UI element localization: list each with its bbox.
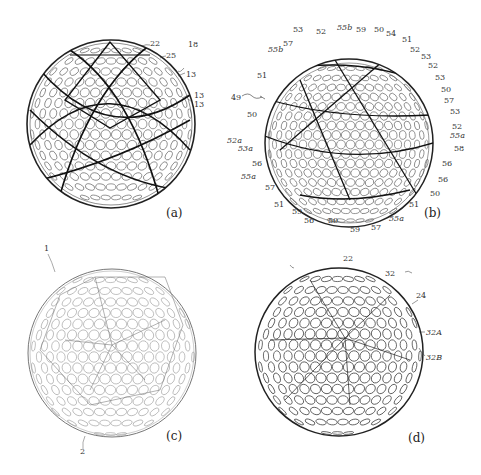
ref-57-r: 57 xyxy=(444,97,454,105)
ref-1: 1 xyxy=(44,245,49,253)
ref-51-bl: 51 xyxy=(274,201,284,209)
ref-51: 51 xyxy=(402,36,412,44)
panel-a: 22 25 18 13 13 13 (a) xyxy=(0,0,240,240)
panel-b: 53 52 55b 59 50 54 51 57 55b 52 53 52 53… xyxy=(240,0,481,240)
ref-53-r3: 53 xyxy=(450,108,460,116)
ref-56-r2: 56 xyxy=(438,176,448,184)
ref-52-r1: 52 xyxy=(410,46,420,54)
panel-d: 22 32 24 32A 32B (d) xyxy=(240,240,481,475)
ref-22: 22 xyxy=(343,255,353,263)
ref-55a-l: 55a xyxy=(241,173,256,181)
golf-ball-diagram-c xyxy=(0,240,240,475)
ref-59-b1: 59 xyxy=(292,208,302,216)
ref-49: 49 xyxy=(231,94,241,102)
ref-32B: 32B xyxy=(426,354,442,362)
ref-53-r1: 53 xyxy=(421,53,431,61)
caption-b: (b) xyxy=(424,206,441,220)
ref-25: 25 xyxy=(166,52,176,60)
panel-c: 1 2 (c) xyxy=(0,240,240,475)
ref-58: 58 xyxy=(454,145,464,153)
ref-50-r: 50 xyxy=(441,86,451,94)
ref-55b-left: 55b xyxy=(268,46,283,54)
ref-32: 32 xyxy=(385,270,395,278)
ref-50: 50 xyxy=(374,26,384,34)
ref-53: 53 xyxy=(293,26,303,34)
ref-18: 18 xyxy=(188,41,198,49)
ref-51-left: 51 xyxy=(257,72,267,80)
ref-59: 59 xyxy=(356,26,366,34)
ref-52-r2: 52 xyxy=(428,62,438,70)
caption-c: (c) xyxy=(166,429,182,443)
ref-52: 52 xyxy=(316,28,326,36)
ref-13-top: 13 xyxy=(186,71,196,79)
ref-13-bottom: 13 xyxy=(194,101,204,109)
ref-53a: 53a xyxy=(238,145,253,153)
ref-55b: 55b xyxy=(337,24,352,32)
ref-50-left: 50 xyxy=(247,111,257,119)
ref-56-l: 56 xyxy=(252,160,262,168)
ref-24: 24 xyxy=(416,292,426,300)
ref-55a-b: 55a xyxy=(389,215,404,223)
ref-50-b: 50 xyxy=(328,217,338,225)
ref-2: 2 xyxy=(80,448,85,456)
ref-53-r2: 53 xyxy=(435,74,445,82)
ref-51-br: 51 xyxy=(409,201,419,209)
ref-55a-r: 55a xyxy=(450,132,465,140)
golf-ball-diagram-d xyxy=(240,240,481,475)
ref-59-b2: 59 xyxy=(350,226,360,234)
ref-22: 22 xyxy=(150,40,160,48)
ref-52-r3: 52 xyxy=(452,123,462,131)
ref-56-r1: 56 xyxy=(442,160,452,168)
ref-54: 54 xyxy=(386,30,396,38)
golf-ball-diagram-a xyxy=(0,0,240,240)
ref-32A: 32A xyxy=(426,329,442,337)
ref-50-br: 50 xyxy=(430,190,440,198)
ref-13-mid: 13 xyxy=(194,92,204,100)
ref-56-b: 56 xyxy=(304,217,314,225)
ref-57-b: 57 xyxy=(371,224,381,232)
caption-d: (d) xyxy=(408,431,425,445)
ref-57-l: 57 xyxy=(265,184,275,192)
ref-57: 57 xyxy=(283,40,293,48)
caption-a: (a) xyxy=(166,206,183,220)
